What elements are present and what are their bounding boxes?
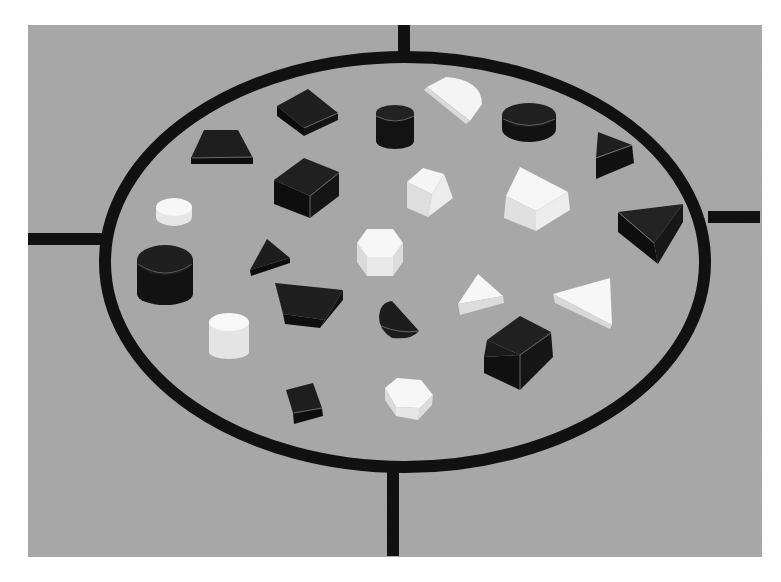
blocks-photo	[0, 0, 781, 582]
dark-cylinder-block	[137, 245, 193, 305]
light-hexagon-block	[357, 229, 403, 276]
light-small-cylinder-block	[156, 198, 192, 226]
dark-cylinder-block	[376, 105, 414, 149]
dark-disc-block	[502, 103, 556, 142]
light-tall-cylinder-block	[209, 313, 249, 359]
